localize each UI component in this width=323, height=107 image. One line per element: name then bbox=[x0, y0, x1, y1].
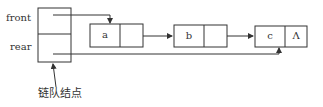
front-pointer-arrow bbox=[53, 15, 110, 23]
rear-pointer-arrow bbox=[53, 48, 279, 54]
null-pointer-symbol: Λ bbox=[285, 31, 307, 41]
node-b-data: b bbox=[174, 31, 204, 41]
node-a-data: a bbox=[90, 30, 120, 40]
rear-label: rear bbox=[10, 42, 31, 52]
caption-arrow bbox=[53, 64, 56, 87]
front-label: front bbox=[6, 13, 31, 23]
queue-node-caption: 链队结点 bbox=[38, 88, 82, 100]
node-c-data: c bbox=[255, 31, 285, 41]
